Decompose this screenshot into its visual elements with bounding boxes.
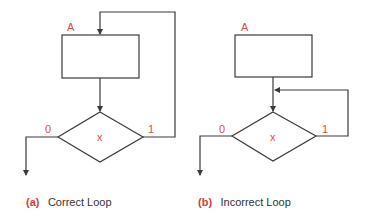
caption-text-b: Incorrect Loop [221,196,291,208]
true-branch-label-a: 1 [148,123,154,135]
exit-arrow-a [26,137,58,175]
panel-b-incorrect-loop: A x 0 1 (b) Incorrect Loop [198,21,348,209]
box-label-b: A [241,21,249,33]
panel-a-correct-loop: A x 0 1 (a) Correct Loop [26,12,175,209]
process-box-a [62,35,139,78]
process-box-b [235,35,312,77]
caption-text-a: Correct Loop [48,196,112,208]
flowchart-figure: A x 0 1 (a) Correct Loop A x 0 1 (b) I [0,0,365,217]
box-label-a: A [67,21,75,33]
decision-label-a: x [97,131,103,143]
false-branch-label-b: 0 [219,123,225,135]
true-branch-label-b: 1 [322,123,328,135]
caption-a: (a) Correct Loop [26,192,112,209]
caption-tag-a: (a) [26,196,40,208]
false-branch-label-a: 0 [45,123,51,135]
caption-b: (b) Incorrect Loop [198,192,291,209]
caption-tag-b: (b) [198,196,212,208]
exit-arrow-b [200,136,232,175]
decision-label-b: x [270,131,276,143]
